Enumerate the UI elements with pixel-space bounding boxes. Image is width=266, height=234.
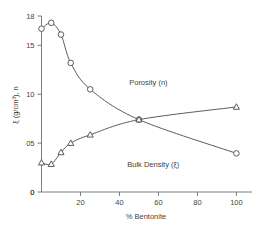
figure-container: 005101518 020406080100 % Bentonite ξ (g/…: [0, 0, 266, 234]
x-tick-label: 80: [193, 198, 201, 207]
chart-plot-area: 005101518 020406080100 % Bentonite ξ (g/…: [0, 0, 266, 234]
data-point-marker: [48, 20, 54, 26]
x-tick-label: 40: [115, 198, 123, 207]
y-axis-ticks: 005101518: [26, 12, 41, 197]
y-axis-title: ξ (g/cm³), n: [11, 86, 20, 124]
x-tick-label: 100: [230, 198, 243, 207]
series-porosity: [39, 20, 240, 156]
data-point-marker: [39, 26, 45, 32]
y-tick-label: 10: [26, 90, 34, 99]
series-annotation-porosity: Porosity (n): [129, 78, 168, 87]
x-axis-title: % Bentonite: [126, 212, 166, 221]
data-point-marker: [233, 104, 239, 110]
data-point-marker: [234, 151, 240, 157]
x-axis-ticks: 020406080100: [30, 188, 242, 207]
y-tick-label: 15: [26, 41, 34, 50]
data-point-marker: [68, 140, 74, 146]
y-tick-label: 18: [26, 12, 34, 21]
series-bulk-density: [38, 104, 239, 167]
series-annotation-bulk-density: Bulk Density (ξ): [127, 160, 180, 169]
data-point-marker: [58, 32, 64, 38]
series-curve: [42, 23, 237, 154]
data-point-marker: [68, 60, 74, 66]
x-tick-label: 20: [76, 198, 84, 207]
data-point-marker: [87, 87, 93, 93]
x-tick-label-zero: 0: [30, 188, 34, 197]
x-tick-label: 60: [154, 198, 162, 207]
y-tick-label: 05: [26, 139, 34, 148]
data-series-layer: [38, 20, 239, 166]
data-point-marker: [38, 159, 44, 165]
